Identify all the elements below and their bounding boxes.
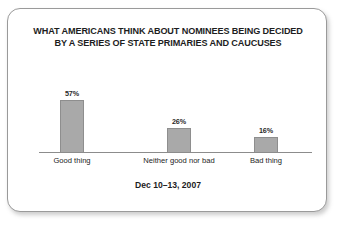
chart-title: WHAT AMERICANS THINK ABOUT NOMINEES BEIN… [20, 25, 316, 50]
bar-column-good-thing: 57% [60, 71, 84, 153]
chart-title-line-2: BY A SERIES OF STATE PRIMARIES AND CAUCU… [20, 37, 316, 49]
x-axis-baseline [39, 152, 312, 153]
x-axis-category-labels: Good thing Neither good nor bad Bad thin… [8, 156, 328, 170]
bar-group-neither-good-nor-bad: 26% [144, 71, 214, 153]
bar-value-label-neither-good-nor-bad: 26% [172, 117, 186, 126]
chart-card: WHAT AMERICANS THINK ABOUT NOMINEES BEIN… [7, 8, 327, 212]
bar-column-bad-thing: 16% [254, 71, 278, 153]
bar-value-label-bad-thing: 16% [259, 126, 273, 135]
bar-chart-plot-area: 57% 26% 16% [8, 71, 328, 153]
category-label-bad-thing: Bad thing [211, 156, 321, 165]
bar-neither-good-nor-bad [167, 128, 191, 153]
bar-bad-thing [254, 137, 278, 153]
bar-good-thing [60, 100, 84, 153]
bar-group-good-thing: 57% [37, 71, 107, 153]
bar-value-label-good-thing: 57% [65, 89, 79, 98]
bar-group-bad-thing: 16% [231, 71, 301, 153]
category-label-good-thing: Good thing [17, 156, 127, 165]
chart-title-line-1: WHAT AMERICANS THINK ABOUT NOMINEES BEIN… [20, 25, 316, 37]
date-caption: Dec 10–13, 2007 [20, 180, 316, 190]
bar-column-neither-good-nor-bad: 26% [167, 71, 191, 153]
